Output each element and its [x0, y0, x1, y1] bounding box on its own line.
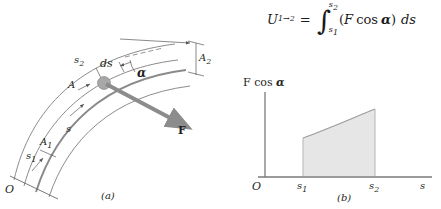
s2-tick-label: s2	[369, 180, 379, 194]
work-area-fill	[303, 109, 375, 176]
panel-b-svg	[0, 0, 441, 209]
panel-b-caption: (b)	[337, 192, 351, 203]
origin-label-b: O	[252, 180, 261, 193]
s1-tick-label: s1	[297, 180, 307, 194]
y-axis-label: F cos α	[243, 76, 285, 89]
x-axis-label: s	[420, 180, 425, 191]
panel-b-chart	[0, 0, 441, 209]
